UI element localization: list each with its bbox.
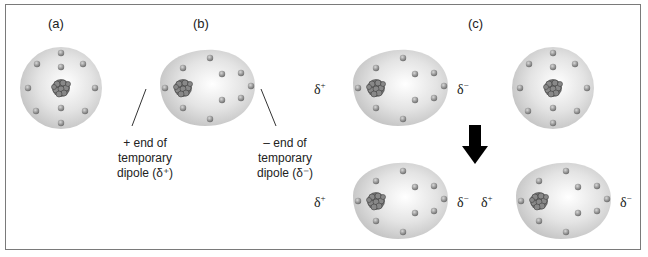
pointer-line-negative [261, 89, 276, 126]
pointer-line-positive [132, 89, 146, 126]
panel-label-c: (c) [468, 16, 483, 31]
atom-c-bottom-left [353, 163, 448, 239]
atom-c-top-right [512, 47, 594, 129]
delta-plus-bottom-right: δ+ [481, 193, 493, 211]
delta-minus-bottom-right: δ− [620, 193, 632, 211]
arrow-down-icon [462, 125, 488, 164]
atom-c-top-left [353, 50, 448, 126]
atom-b-dipole [160, 50, 255, 126]
panel-label-b: (b) [193, 16, 209, 31]
delta-plus-top: δ+ [314, 80, 326, 98]
panel-label-a: (a) [48, 16, 64, 31]
delta-minus-top: δ− [457, 80, 469, 98]
delta-plus-bottom-left: δ+ [314, 193, 326, 211]
atom-a-symmetric [20, 47, 102, 129]
atom-diagram [0, 0, 648, 257]
caption-negative-end: – end of temporary dipole (δ⁻) [244, 136, 326, 181]
delta-minus-bottom-left: δ− [457, 193, 469, 211]
atom-c-bottom-right [516, 163, 611, 239]
caption-positive-end: + end of temporary dipole (δ⁺) [104, 136, 186, 181]
